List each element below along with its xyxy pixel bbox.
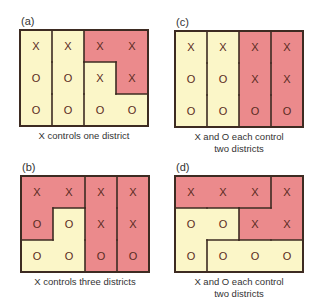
district-borders	[20, 30, 148, 126]
caption-line: X controls three districts	[5, 276, 165, 288]
panel-caption: X and O each controltwo districts	[159, 276, 319, 300]
panel-caption: X controls one district	[4, 130, 164, 142]
caption-line: X and O each control	[159, 276, 319, 288]
district-borders	[175, 176, 303, 272]
district-grid: XXXXOOXXOOOO	[21, 176, 149, 272]
panel-caption: X controls three districts	[5, 276, 165, 288]
panel-label: (d)	[176, 161, 189, 173]
district-borders	[175, 31, 303, 127]
panel-label: (a)	[21, 15, 34, 27]
caption-line: X and O each control	[159, 131, 319, 143]
caption-line: two districts	[159, 143, 319, 155]
district-borders	[21, 176, 149, 272]
panel-caption: X and O each controltwo districts	[159, 131, 319, 155]
caption-line: X controls one district	[4, 130, 164, 142]
panel-label: (c)	[176, 16, 189, 28]
district-grid: XXXXOOXXOOOO	[20, 30, 148, 126]
district-grid: XXXXOOXXOOOO	[175, 176, 303, 272]
panel-label: (b)	[22, 161, 35, 173]
caption-line: two districts	[159, 288, 319, 300]
district-grid: XXXXOOXXOOOO	[175, 31, 303, 127]
